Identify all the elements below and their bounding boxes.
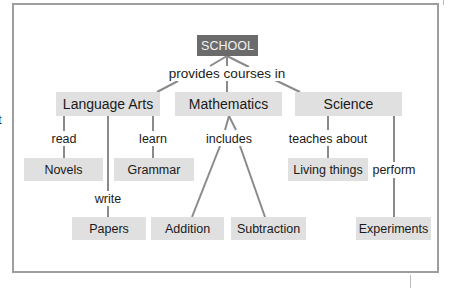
- link-label-perform: perform: [371, 163, 416, 177]
- link-label-write: write: [94, 192, 122, 206]
- node-addition: Addition: [151, 217, 224, 240]
- node-living-things: Living things: [288, 158, 368, 181]
- node-grammar: Grammar: [114, 158, 194, 181]
- link-label-learn: learn: [138, 132, 168, 146]
- link-label-provides-courses-in: provides courses in: [168, 67, 286, 81]
- node-papers: Papers: [72, 217, 146, 240]
- node-subtraction: Subtraction: [231, 217, 306, 240]
- link-label-read: read: [50, 132, 77, 146]
- node-novels: Novels: [24, 158, 103, 181]
- node-school: SCHOOL: [197, 35, 258, 56]
- node-experiments: Experiments: [356, 217, 431, 240]
- node-science: Science: [295, 92, 402, 116]
- node-mathematics: Mathematics: [175, 92, 282, 116]
- link-label-teaches-about: teaches about: [288, 132, 369, 146]
- link-label-includes: includes: [205, 132, 253, 146]
- node-language-arts: Language Arts: [56, 92, 160, 116]
